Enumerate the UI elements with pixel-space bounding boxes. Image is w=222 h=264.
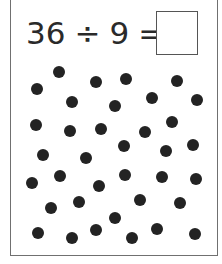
- counting-dot: [95, 123, 107, 135]
- counting-dot: [120, 73, 132, 85]
- answer-box[interactable]: [156, 11, 198, 55]
- counting-dot: [73, 196, 85, 208]
- counting-dot: [151, 223, 163, 235]
- counting-dot: [54, 170, 66, 182]
- counting-dot: [119, 169, 131, 181]
- counting-dot: [93, 180, 105, 192]
- divisor: 9: [109, 15, 129, 51]
- counting-dot: [134, 194, 146, 206]
- counting-dot: [118, 140, 130, 152]
- counting-dot: [90, 224, 102, 236]
- counting-dot: [156, 171, 168, 183]
- counting-dot: [45, 202, 57, 214]
- counting-dot: [190, 173, 202, 185]
- counting-dot: [26, 177, 38, 189]
- counting-dot: [109, 100, 121, 112]
- counting-dot: [64, 125, 76, 137]
- counting-dot: [66, 96, 78, 108]
- counting-dot: [160, 145, 172, 157]
- counting-dot: [66, 232, 78, 244]
- division-operator: ÷: [74, 15, 100, 51]
- counting-dot: [126, 232, 138, 244]
- counting-dot: [189, 228, 201, 240]
- counting-dot: [32, 227, 44, 239]
- counting-dot: [139, 126, 151, 138]
- counting-dot: [174, 197, 186, 209]
- counting-dot: [146, 92, 158, 104]
- counting-dot: [90, 76, 102, 88]
- counting-dot: [80, 152, 92, 164]
- dividend: 36: [26, 15, 65, 51]
- counting-dot: [37, 149, 49, 161]
- counting-dot: [109, 212, 121, 224]
- counting-dot: [187, 139, 199, 151]
- counting-dot: [53, 66, 65, 78]
- counting-dot: [191, 94, 203, 106]
- counting-dot: [30, 119, 42, 131]
- counting-dot: [171, 75, 183, 87]
- counting-dot: [166, 116, 178, 128]
- counting-dot: [31, 83, 43, 95]
- division-equation: 36÷9=: [26, 14, 173, 52]
